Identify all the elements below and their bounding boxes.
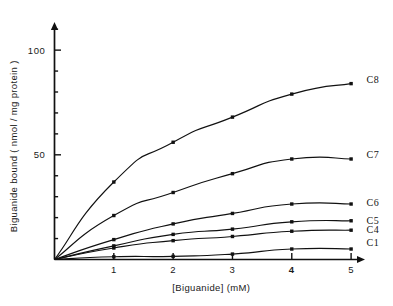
series-label-c7: C7 [367,149,380,160]
series-data-point [290,220,293,223]
series-data-point [290,247,293,250]
series-data-point [112,246,115,249]
x-axis-tick-label: 3 [230,264,236,275]
x-axis-title: [Biguanide] (mM) [172,282,250,293]
series-data-point [231,235,234,238]
series-data-point [349,202,352,205]
chart-axes [51,22,365,263]
series-data-point [290,157,293,160]
series-data-point [171,255,174,258]
series-line [55,220,352,259]
series-data-point [171,239,174,242]
chart-labels-group: 5010012345C8C7C6C5C4C1[Biguanide] (mM)Bi… [8,45,379,293]
series-data-point [349,82,352,85]
x-axis-tick-label: 5 [348,264,354,275]
series-data-point [290,230,293,233]
series-data-point [171,191,174,194]
series-data-point [231,172,234,175]
series-data-point [231,212,234,215]
x-axis-tick-label: 2 [170,264,176,275]
x-axis-tick-label: 4 [289,264,295,275]
series-data-point [112,238,115,241]
y-axis-tick-label: 50 [34,149,46,160]
y-axis-title: Biguanide bound ( nmol / mg protein ) [8,60,19,232]
series-data-point [231,252,234,255]
chart-plot-area: 5010012345C8C7C6C5C4C1[Biguanide] (mM)Bi… [0,0,393,306]
series-data-point [231,227,234,230]
series-label-c8: C8 [367,74,380,85]
series-data-point [349,219,352,222]
series-data-point [349,247,352,250]
series-label-c1: C1 [367,237,380,248]
series-data-point [112,214,115,217]
series-data-point [112,180,115,183]
series-data-point [231,115,234,118]
series-data-point [171,141,174,144]
chart-series-c5 [55,219,353,259]
series-data-point [171,222,174,225]
series-label-c6: C6 [367,197,380,208]
series-label-c4: C4 [367,224,380,235]
chart-figure: 5010012345C8C7C6C5C4C1[Biguanide] (mM)Bi… [0,0,393,306]
series-data-point [290,202,293,205]
chart-series-group [55,82,353,260]
series-line [55,230,352,259]
chart-series-c8 [55,82,353,260]
series-data-point [171,233,174,236]
series-data-point [112,255,115,258]
series-data-point [349,228,352,231]
x-axis-tick-label: 1 [111,264,117,275]
series-data-point [290,92,293,95]
y-axis-tick-label: 100 [28,45,46,56]
x-axis-arrowhead [357,256,365,263]
series-line [55,84,352,260]
series-data-point [349,157,352,160]
